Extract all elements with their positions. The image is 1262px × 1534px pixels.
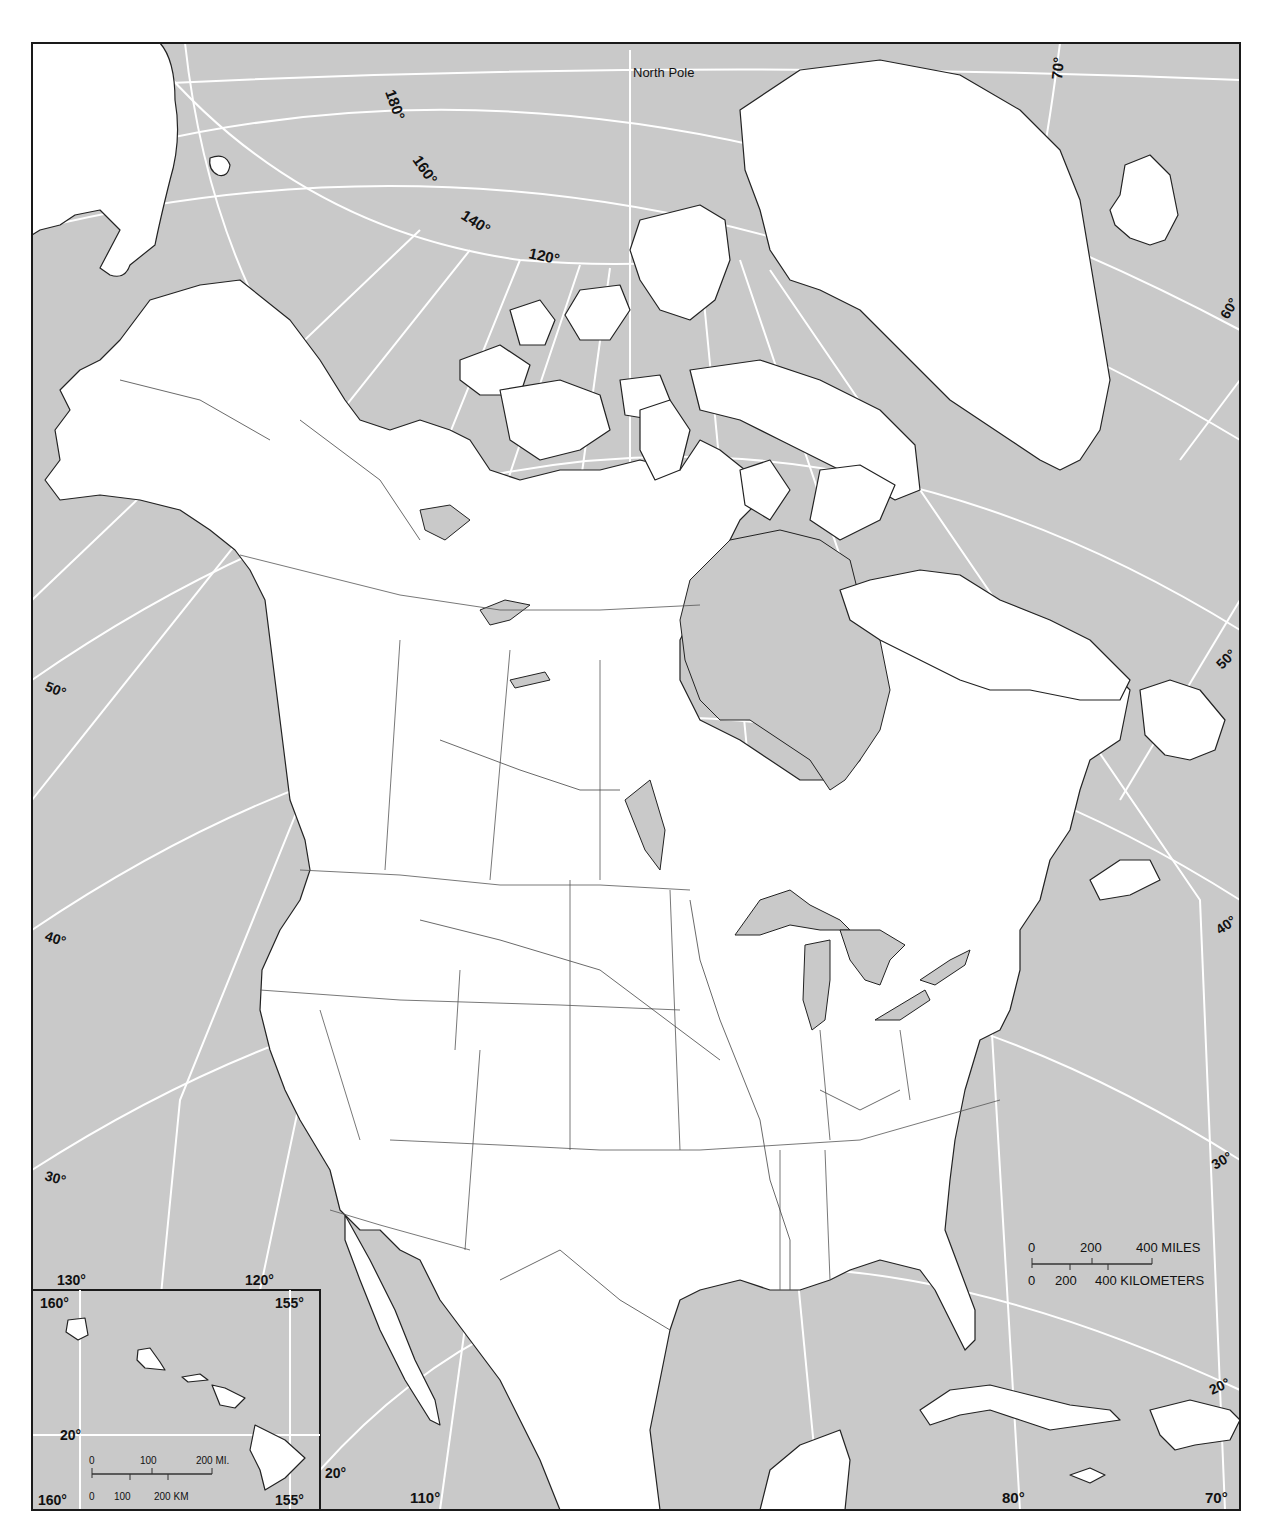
lon-label-130: 130°: [57, 1272, 86, 1288]
north-america-outline-map: North Pole 180° 160° 140° 120° 70° 50° 4…: [0, 0, 1262, 1534]
lat-label-20-bottom: 20°: [325, 1465, 346, 1481]
inset-lon-155-bottom: 155°: [275, 1492, 304, 1508]
lon-label-110: 110°: [410, 1489, 440, 1506]
inset-scale-km-100: 100: [114, 1491, 131, 1502]
north-pole-label: North Pole: [633, 65, 694, 80]
lon-label-70-bottom: 70°: [1205, 1489, 1228, 1506]
inset-scale-mi-0: 0: [89, 1455, 95, 1466]
inset-scale-km-200: 200 KM: [154, 1491, 188, 1502]
inset-scale-km-0: 0: [89, 1491, 95, 1502]
scale-km-200: 200: [1055, 1273, 1077, 1288]
scale-miles-400: 400 MILES: [1136, 1240, 1201, 1255]
scale-miles-200: 200: [1080, 1240, 1102, 1255]
scale-km-400: 400 KILOMETERS: [1095, 1273, 1204, 1288]
lon-label-120-bottom: 120°: [245, 1272, 274, 1288]
inset-scale-mi-200: 200 MI.: [196, 1455, 229, 1466]
scale-miles-0: 0: [1028, 1240, 1035, 1255]
hawaii-inset: [32, 1290, 320, 1510]
inset-lat-20: 20°: [60, 1427, 81, 1443]
lon-label-80: 80°: [1002, 1489, 1025, 1506]
inset-lon-160-top: 160°: [40, 1295, 69, 1311]
inset-lon-155-top: 155°: [275, 1295, 304, 1311]
inset-lon-160-bottom: 160°: [38, 1492, 67, 1508]
inset-scale-mi-100: 100: [140, 1455, 157, 1466]
scale-km-0: 0: [1028, 1273, 1035, 1288]
lon-label-70-top: 70°: [1048, 56, 1067, 80]
